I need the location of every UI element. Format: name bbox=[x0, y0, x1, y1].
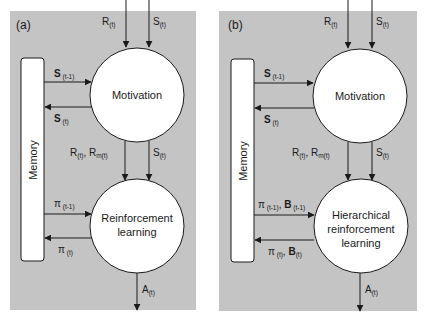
rl-node-label-line2: learning bbox=[117, 226, 156, 238]
hrl-node-label-line3: learning bbox=[341, 237, 380, 249]
panel-b-label: (b) bbox=[228, 18, 243, 32]
memory-label: Memory bbox=[237, 141, 249, 181]
panel-a-label: (a) bbox=[16, 18, 31, 32]
hrl-node-label-line2: reinforcement bbox=[327, 223, 394, 235]
motivation-node-label: Motivation bbox=[335, 90, 385, 102]
panel-b: (b) Memory Motivation Hierarchical reinf… bbox=[219, 0, 417, 311]
rl-node-label-line1: Reinforcement bbox=[101, 212, 173, 224]
motivation-node-label: Motivation bbox=[112, 89, 162, 101]
memory-label: Memory bbox=[27, 140, 39, 180]
hrl-node-label-line1: Hierarchical bbox=[332, 209, 390, 221]
panel-a: (a) Memory Motivation Reinforcement lear… bbox=[10, 0, 196, 310]
diagram-canvas: (a) Memory Motivation Reinforcement lear… bbox=[0, 0, 424, 319]
